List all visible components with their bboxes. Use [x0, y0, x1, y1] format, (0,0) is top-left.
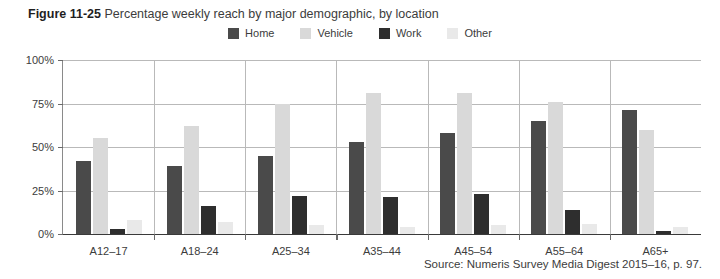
bar-vehicle[interactable] [275, 104, 290, 235]
legend-swatch-icon [300, 28, 311, 39]
legend-label: Other [464, 27, 492, 39]
bar-other[interactable] [309, 225, 324, 234]
x-axis-category-label: A25–34 [272, 245, 310, 257]
legend-label: Home [245, 27, 274, 39]
bar-work[interactable] [565, 210, 580, 234]
y-axis-tick-label: 75% [32, 98, 54, 110]
x-axis-tick [245, 234, 246, 240]
y-axis-tick-label: 100% [26, 54, 54, 66]
bar-work[interactable] [110, 229, 125, 234]
bar-home[interactable] [622, 110, 637, 234]
bar-home[interactable] [167, 166, 182, 234]
legend-swatch-icon [379, 28, 390, 39]
bar-other[interactable] [582, 224, 597, 234]
bar-other[interactable] [218, 222, 233, 234]
figure-number: Figure 11-25 [28, 7, 101, 21]
bar-other[interactable] [673, 227, 688, 234]
legend-label: Vehicle [317, 27, 352, 39]
chart-legend: HomeVehicleWorkOther [0, 27, 720, 39]
bar-vehicle[interactable] [457, 93, 472, 234]
y-axis-tick [58, 234, 63, 235]
legend-item-other[interactable]: Other [447, 27, 492, 39]
bar-other[interactable] [400, 227, 415, 234]
x-axis-category-label: A35–44 [363, 245, 401, 257]
bar-vehicle[interactable] [93, 138, 108, 234]
bar-home[interactable] [531, 121, 546, 234]
bar-home[interactable] [76, 161, 91, 234]
source-note: Source: Numeris Survey Media Digest 2015… [424, 258, 702, 270]
chart-plot-area: 0%25%50%75%100%A12–17A18–24A25–34A35–44A… [62, 60, 701, 235]
x-axis-category-label: A12–17 [90, 245, 128, 257]
x-axis-tick [610, 234, 611, 240]
legend-item-vehicle[interactable]: Vehicle [300, 27, 352, 39]
legend-swatch-icon [447, 28, 458, 39]
legend-item-home[interactable]: Home [228, 27, 274, 39]
legend-swatch-icon [228, 28, 239, 39]
bar-work[interactable] [383, 197, 398, 234]
bar-home[interactable] [440, 133, 455, 234]
bar-vehicle[interactable] [639, 130, 654, 234]
x-axis-tick [154, 234, 155, 240]
bar-home[interactable] [258, 156, 273, 234]
bar-vehicle[interactable] [366, 93, 381, 234]
bar-other[interactable] [127, 220, 142, 234]
x-axis-tick [336, 234, 337, 240]
legend-label: Work [396, 27, 421, 39]
bar-group-a2534 [245, 60, 336, 234]
bar-work[interactable] [292, 196, 307, 234]
y-axis-tick-label: 25% [32, 185, 54, 197]
figure-caption: Figure 11-25 Percentage weekly reach by … [28, 6, 439, 22]
bar-other[interactable] [491, 225, 506, 234]
bar-vehicle[interactable] [548, 102, 563, 234]
bar-group-a3544 [336, 60, 427, 234]
bar-group-a65 [610, 60, 701, 234]
bar-work[interactable] [474, 194, 489, 234]
figure-title: Percentage weekly reach by major demogra… [104, 7, 438, 21]
bar-group-a5564 [519, 60, 610, 234]
bar-group-a1217 [63, 60, 154, 234]
y-axis-tick-label: 50% [32, 141, 54, 153]
x-axis-tick [428, 234, 429, 240]
x-axis-category-label: A55–64 [545, 245, 583, 257]
y-axis-tick-label: 0% [38, 228, 54, 240]
bar-home[interactable] [349, 142, 364, 234]
x-axis-category-label: A65+ [642, 245, 668, 257]
bar-work[interactable] [201, 206, 216, 234]
x-axis-tick [519, 234, 520, 240]
bar-group-a1824 [154, 60, 245, 234]
x-axis-category-label: A45–54 [454, 245, 492, 257]
x-axis-category-label: A18–24 [181, 245, 219, 257]
bar-work[interactable] [656, 231, 671, 234]
bar-group-a4554 [428, 60, 519, 234]
bar-vehicle[interactable] [184, 126, 199, 234]
legend-item-work[interactable]: Work [379, 27, 421, 39]
